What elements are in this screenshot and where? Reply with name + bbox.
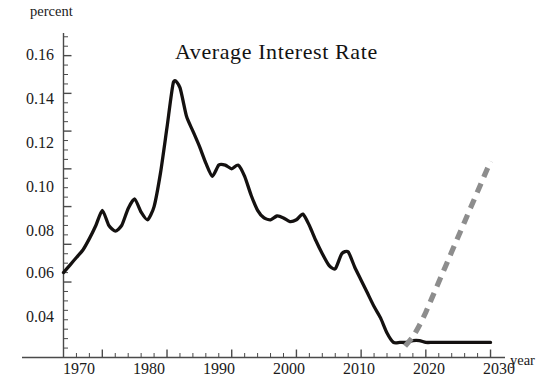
interest-rate-chart-figure: Average Interest Rate percent year 0.04 … — [0, 0, 549, 379]
x-axis-ticks — [76, 350, 490, 358]
series-line-projection — [405, 161, 490, 346]
y-axis-ticks — [64, 37, 72, 358]
axis-lines — [22, 33, 505, 358]
plot-area — [0, 0, 549, 379]
series-line-historical — [64, 81, 491, 343]
